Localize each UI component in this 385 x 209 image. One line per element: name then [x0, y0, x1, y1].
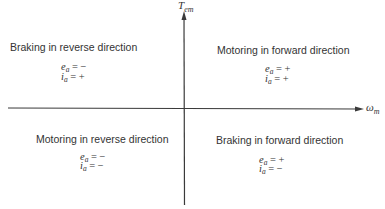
quadrant-bottom-left-i: ia = −: [80, 161, 104, 173]
quadrant-bottom-right-i: ia = −: [259, 164, 283, 176]
axes: [0, 0, 385, 209]
quadrant-bottom-right-title: Braking in forward direction: [216, 134, 343, 146]
quadrant-bottom-left-title: Motoring in reverse direction: [36, 133, 168, 145]
horizontal-axis-arrowhead-icon: [355, 107, 364, 112]
quadrant-top-left-title: Braking in reverse direction: [10, 41, 137, 53]
quadrant-top-right-title: Motoring in forward direction: [217, 44, 349, 56]
vertical-axis: [184, 16, 185, 205]
quadrant-top-left-i: ia = +: [61, 72, 85, 84]
horizontal-axis-label: ωm: [366, 101, 380, 116]
vertical-axis-label: Tem: [178, 0, 193, 14]
quadrant-top-right-i: ia = +: [265, 74, 289, 86]
